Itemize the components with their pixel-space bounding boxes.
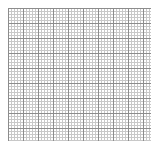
- graph-paper-grid: [8, 8, 151, 141]
- screenshot-canvas: [0, 0, 158, 149]
